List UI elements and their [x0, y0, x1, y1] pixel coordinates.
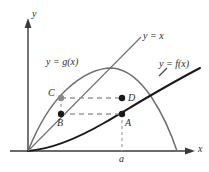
x-axis-label: x [198, 144, 202, 154]
y-axis-label: y [32, 9, 36, 19]
leader-f-label [159, 68, 167, 76]
y-axis [25, 18, 32, 151]
x-tick-label-a: a [119, 154, 124, 164]
function-graph-figure: y x a y = g(x) y = f(x) y = x C B D A [0, 0, 209, 172]
curve-f [28, 68, 200, 151]
graph-canvas [0, 0, 209, 172]
curve-g [28, 68, 177, 151]
point-label-C: C [48, 88, 55, 98]
point-D [119, 95, 125, 101]
curve-label-f: y = f(x) [159, 59, 189, 69]
curve-label-g: y = g(x) [46, 57, 78, 67]
point-label-B: B [57, 118, 63, 128]
curve-label-identity: y = x [143, 31, 164, 41]
point-label-A: A [125, 118, 131, 128]
point-C [58, 95, 64, 101]
point-label-D: D [128, 93, 135, 103]
x-axis [10, 148, 195, 155]
